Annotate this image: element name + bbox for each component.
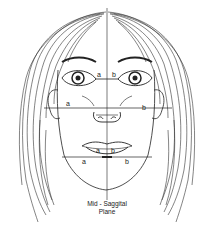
face-outline <box>57 70 155 190</box>
cheek-label-a: a <box>66 100 70 107</box>
eye-label-b: b <box>112 71 116 78</box>
hair-left <box>19 12 106 222</box>
jaw-label-a: a <box>82 158 86 165</box>
jaw-label-b: b <box>125 158 129 165</box>
eye-left <box>62 71 96 86</box>
cheek-label-b: b <box>142 104 146 111</box>
lip-label-a: a <box>96 147 100 154</box>
eyebrow-right <box>118 58 152 63</box>
caption-line1: Mid - Saggital <box>87 200 127 208</box>
lip-label-b: b <box>111 147 115 154</box>
eye-right <box>118 71 152 86</box>
face-diagram: a b a b a b a b Mid - Saggital Plane <box>0 0 212 227</box>
eyebrow-left <box>62 58 96 63</box>
hair-right <box>108 12 195 222</box>
eye-label-a: a <box>97 71 101 78</box>
caption-line2: Plane <box>99 208 116 215</box>
